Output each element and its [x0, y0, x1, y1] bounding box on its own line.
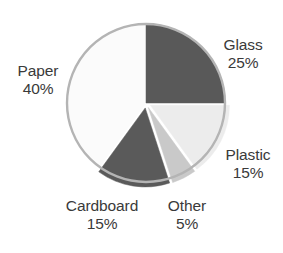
pie-label-plastic-value: 15% [213, 164, 283, 182]
pie-label-plastic-name: Plastic [213, 146, 283, 164]
pie-label-glass-name: Glass [206, 36, 280, 54]
pie-label-paper-name: Paper [2, 62, 74, 80]
pie-label-other-name: Other [156, 197, 218, 215]
pie-label-other: Other 5% [156, 197, 218, 234]
pie-label-plastic: Plastic 15% [213, 146, 283, 183]
pie-label-other-value: 5% [156, 215, 218, 233]
pie-chart: Glass 25% Paper 40% Plastic 15% Cardboar… [0, 0, 283, 253]
pie-label-cardboard: Cardboard 15% [50, 197, 154, 234]
pie-label-glass-value: 25% [206, 54, 280, 72]
pie-label-cardboard-value: 15% [50, 215, 154, 233]
pie-label-cardboard-name: Cardboard [50, 197, 154, 215]
pie-label-paper-value: 40% [2, 80, 74, 98]
pie-label-paper: Paper 40% [2, 62, 74, 99]
pie-label-glass: Glass 25% [206, 36, 280, 73]
